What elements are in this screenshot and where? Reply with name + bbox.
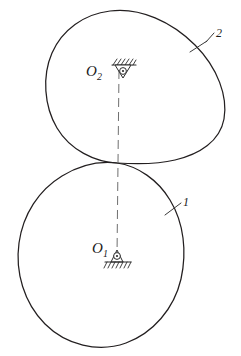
lower-center-label: O <box>92 240 103 256</box>
upper-cam-outline <box>46 10 225 163</box>
lower-support-hatch <box>116 262 119 268</box>
upper-support-hatch <box>117 59 121 65</box>
lower-support-hatch <box>124 262 127 268</box>
upper-part-label: 2 <box>216 26 222 40</box>
upper-center-label: O <box>86 63 97 79</box>
diagram-canvas: O 2 O 1 2 1 <box>0 0 241 356</box>
upper-support-hatch <box>121 59 125 65</box>
upper-support-hatch <box>125 59 129 65</box>
lower-support-hatch <box>120 262 123 268</box>
upper-center-label-subscript: 2 <box>97 71 102 82</box>
upper-support-hatch <box>113 59 117 65</box>
upper-support-hatch <box>129 59 133 65</box>
lower-support-group <box>104 250 131 268</box>
lower-pivot-dot <box>116 255 118 257</box>
cam-mechanism-figure: O 2 O 1 2 1 <box>0 0 241 356</box>
upper-support-hatch <box>133 60 136 65</box>
upper-pivot-dot <box>122 70 124 72</box>
lower-support-hatch <box>112 262 115 268</box>
lower-support-hatch <box>104 262 107 268</box>
upper-support-group <box>112 59 136 78</box>
lower-center-label-subscript: 1 <box>103 248 108 259</box>
lower-support-hatch <box>108 262 111 268</box>
lower-support-hatch <box>128 262 131 268</box>
lower-part-label: 1 <box>183 195 189 209</box>
